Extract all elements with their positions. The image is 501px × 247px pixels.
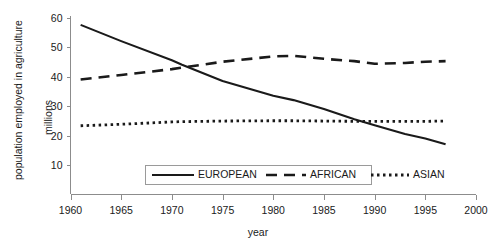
y-tick-label: 50 — [51, 41, 63, 53]
x-tick-label: 1975 — [211, 204, 235, 216]
x-axis-title: year — [248, 226, 269, 238]
x-tick-label: 1995 — [414, 204, 438, 216]
series-line-asian — [81, 121, 446, 126]
y-axis-ticks: 102030405060 — [51, 12, 71, 172]
x-tick-label: 1990 — [363, 204, 387, 216]
x-axis-ticks: 196019651970197519801985199019952000 — [59, 195, 488, 216]
x-tick-label: 1960 — [59, 204, 83, 216]
x-tick-label: 1970 — [160, 204, 184, 216]
y-tick-label: 60 — [51, 12, 63, 24]
y-tick-label: 10 — [51, 159, 63, 171]
y-axis-title-line2: millions — [42, 100, 54, 135]
series-line-european — [81, 25, 446, 144]
legend-label-asian[interactable]: ASIAN — [413, 168, 445, 180]
legend-label-european[interactable]: EUROPEAN — [198, 168, 257, 180]
y-tick-label: 40 — [51, 71, 63, 83]
legend-label-african[interactable]: AFRICAN — [310, 168, 356, 180]
series-line-african — [81, 56, 446, 80]
x-tick-label: 2000 — [464, 204, 488, 216]
x-tick-label: 1985 — [312, 204, 336, 216]
chart-legend[interactable]: EUROPEANAFRICANASIAN — [146, 166, 445, 185]
x-tick-label: 1965 — [110, 204, 134, 216]
x-tick-label: 1980 — [262, 204, 286, 216]
y-axis-title-line1: population employed in agriculture — [12, 20, 24, 180]
chart-canvas: 102030405060 196019651970197519801985199… — [0, 0, 501, 247]
line-chart: 102030405060 196019651970197519801985199… — [0, 0, 501, 247]
data-series-group — [81, 25, 446, 144]
